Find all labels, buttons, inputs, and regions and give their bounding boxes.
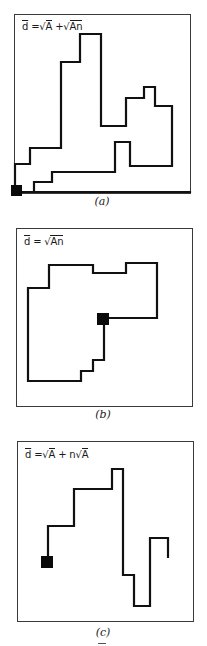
panel-a-start-marker [11,185,22,196]
panel-c-start-marker [41,556,53,568]
panel-c-caption: (c) [83,626,123,639]
panel-a-caption: (a) [82,195,122,208]
panel-b-start-marker [97,313,109,325]
panel-b-caption: (b) [83,408,123,421]
panel-b-path [28,263,157,381]
panel-c-path [48,469,168,606]
cropped-overline [98,643,106,644]
panel-a-path [15,34,172,192]
path-drawings [0,0,207,646]
